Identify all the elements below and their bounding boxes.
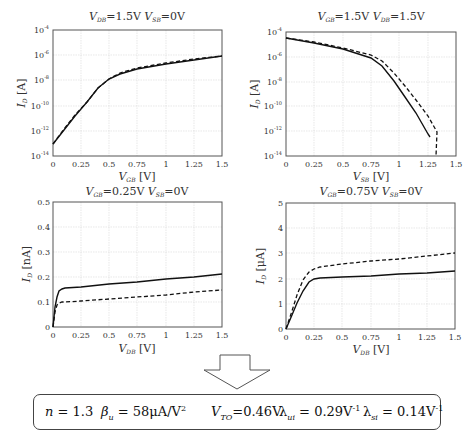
grid [286,32,456,156]
down-arrow-icon [204,355,270,389]
x-axis-label: VSB [V] [353,170,390,183]
grid [53,202,222,327]
svg-text:10-6: 10-6 [34,49,49,60]
svg-text:1: 1 [163,331,168,340]
svg-text:10-10: 10-10 [264,100,282,111]
solid-curve [286,38,430,137]
x-tick-labels: 00.250.50.7511.251.5 [283,333,461,342]
grid [286,203,455,329]
y-tick-labels: 543210 [278,199,283,334]
svg-text:10-8: 10-8 [34,74,49,85]
svg-text:1.5: 1.5 [449,333,462,342]
svg-text:10-4: 10-4 [267,26,282,37]
svg-text:10-4: 10-4 [34,24,49,35]
svg-text:10-6: 10-6 [267,51,282,62]
svg-text:0: 0 [283,333,288,342]
svg-text:10-12: 10-12 [31,125,49,136]
svg-text:4: 4 [278,224,283,233]
dashed-curve [286,253,455,329]
y-axis-label: ID [A] [15,78,28,108]
x-axis-label: VDB [V] [118,342,155,355]
svg-text:1.5: 1.5 [450,160,463,169]
svg-text:2: 2 [278,275,283,284]
svg-text:0.75: 0.75 [362,160,380,169]
plot-id-vs-vdb-strong: VGB=0.75V VSB=0V 543210 00.250.50.7511.2… [254,185,461,356]
plot-id-vs-vsb: VGB=1.5V VDB=1.5V 10-4 10-6 10-8 10-10 1… [248,10,462,183]
plot-title: VGB=1.5V VDB=1.5V [317,10,425,23]
svg-text:0.25: 0.25 [305,333,323,342]
svg-text:1.5: 1.5 [216,160,229,169]
svg-text:0.5: 0.5 [336,333,349,342]
svg-text:0.75: 0.75 [128,331,146,340]
x-tick-labels: 00.250.50.7511.251.5 [50,331,228,340]
x-tick-labels: 00.250.50.7511.251.5 [50,160,228,169]
y-tick-labels: 0.50.40.30.20.10 [37,198,50,332]
svg-text:1: 1 [396,160,401,169]
plot-title: VGB=0.75V VSB=0V [320,185,424,198]
plot-frame [53,202,222,327]
svg-text:0.1: 0.1 [37,298,50,307]
svg-text:0.25: 0.25 [72,160,90,169]
plot-id-vs-vdb-weak: VGB=0.25V VSB=0V 0.50.40.30.20.10 00.250… [20,185,228,355]
plot-title: VGB=0.25V VSB=0V [86,185,190,198]
plot-title: VDB=1.5V VSB=0V [89,10,186,23]
svg-text:10-10: 10-10 [31,100,49,111]
solid-curve [286,271,455,329]
svg-text:1.25: 1.25 [419,160,437,169]
svg-text:0.25: 0.25 [305,160,323,169]
svg-text:1: 1 [396,333,401,342]
svg-text:0: 0 [278,325,283,334]
y-axis-label: ID [μA] [254,248,267,285]
svg-text:1: 1 [278,300,283,309]
svg-text:0: 0 [283,160,288,169]
dashed-curve [53,290,222,327]
svg-text:10-14: 10-14 [264,150,282,161]
svg-text:10-8: 10-8 [267,76,282,87]
svg-text:0: 0 [50,331,55,340]
svg-text:10-14: 10-14 [31,150,49,161]
svg-text:0.5: 0.5 [37,198,50,207]
plot-id-vs-vgb: VDB=1.5V VSB=0V 10-4 10-6 10-8 10-10 10-… [15,10,228,183]
plot-frame [53,30,222,156]
param-beta: βu = 58μA/V2 [101,404,186,422]
svg-text:1.5: 1.5 [216,331,229,340]
svg-text:1: 1 [163,160,168,169]
svg-text:0.75: 0.75 [128,160,146,169]
svg-text:5: 5 [278,199,283,208]
svg-text:0.75: 0.75 [362,333,380,342]
svg-text:3: 3 [278,249,283,258]
param-lambda-si: λsi = 0.14V-1 [363,404,443,422]
svg-text:0.2: 0.2 [37,273,50,282]
dashed-curve [286,38,437,156]
grid [53,30,222,156]
solid-curve [53,274,222,327]
svg-text:1.25: 1.25 [185,331,203,340]
svg-text:0: 0 [45,323,50,332]
param-n: n = 1.3 [45,404,93,419]
svg-text:0.5: 0.5 [337,160,350,169]
x-axis-label: VDB [V] [352,343,389,356]
svg-text:0.3: 0.3 [37,248,50,257]
x-axis-label: VGB [V] [118,170,155,183]
svg-text:0.25: 0.25 [72,331,90,340]
param-vto: VTO=0.46V [211,404,282,422]
svg-text:0.5: 0.5 [103,331,116,340]
figure-canvas: VDB=1.5V VSB=0V 10-4 10-6 10-8 10-10 10-… [0,0,473,443]
y-axis-label: ID [A] [248,79,261,109]
svg-text:0.5: 0.5 [103,160,116,169]
y-tick-labels: 10-4 10-6 10-8 10-10 10-12 10-14 [264,26,282,161]
plot-frame [286,203,455,329]
x-tick-labels: 00.250.50.7511.251.5 [283,160,462,169]
svg-text:10-12: 10-12 [264,125,282,136]
y-tick-labels: 10-4 10-6 10-8 10-10 10-12 10-14 [31,24,49,161]
svg-text:0.4: 0.4 [37,223,50,232]
svg-text:0: 0 [50,160,55,169]
param-lambda-ui: λui = 0.29V-1 [279,404,360,422]
svg-text:1.25: 1.25 [185,160,203,169]
y-axis-label: ID [nA] [20,246,33,283]
svg-text:1.25: 1.25 [418,333,436,342]
